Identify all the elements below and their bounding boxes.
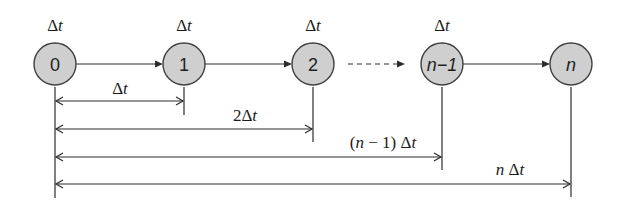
arrowhead-icon: [397, 61, 405, 68]
arrowhead-icon: [284, 61, 292, 68]
arrowhead-icon: [542, 61, 550, 68]
top-labels: Δt Δt Δt Δt: [47, 16, 451, 35]
node-label: 1: [179, 55, 189, 75]
node-label: 2: [308, 55, 318, 75]
dimension-label: Δt: [112, 79, 129, 98]
node-n: n: [550, 43, 592, 85]
arrowhead-icon: [155, 61, 163, 68]
dimension-label: 2Δt: [233, 106, 258, 125]
top-label-node-n-1: Δt: [434, 16, 451, 35]
time-step-diagram: Δt Δt Δt Δt 0 1 2 n−1 n: [0, 0, 625, 206]
node-1: 1: [163, 43, 205, 85]
dimension-delta-t: Δt: [56, 79, 183, 105]
top-label-node-1: Δt: [176, 16, 193, 35]
dimension-label: n Δt: [496, 160, 526, 179]
top-label-node-2: Δt: [305, 16, 322, 35]
dimension-n-delta-t: n Δt: [56, 160, 570, 188]
node-n-1: n−1: [421, 43, 463, 85]
top-label-node-0: Δt: [47, 16, 64, 35]
node-label: 0: [50, 55, 60, 75]
node-label: n: [566, 55, 576, 75]
dimension-n-minus-1-delta-t: (n − 1) Δt: [56, 133, 441, 161]
node-2: 2: [292, 43, 334, 85]
node-label: n−1: [427, 55, 458, 75]
node-0: 0: [34, 43, 76, 85]
extension-lines: [55, 87, 571, 198]
dimension-label: (n − 1) Δt: [350, 133, 418, 152]
